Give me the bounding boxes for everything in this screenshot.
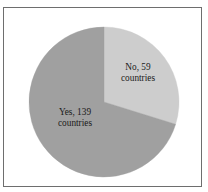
pie-slices	[29, 27, 179, 177]
pie-label-no: No, 59 countries	[107, 62, 169, 83]
pie-chart: No, 59 countries Yes, 139 countries	[4, 8, 203, 188]
pie-svg	[4, 8, 203, 188]
chart-frame: No, 59 countries Yes, 139 countries	[3, 7, 202, 187]
pie-label-yes: Yes, 139 countries	[40, 107, 110, 128]
pie-label-no-line1: No, 59	[107, 62, 169, 73]
pie-label-yes-line2: countries	[40, 118, 110, 129]
pie-label-no-line2: countries	[107, 73, 169, 84]
pie-label-yes-line1: Yes, 139	[40, 107, 110, 118]
